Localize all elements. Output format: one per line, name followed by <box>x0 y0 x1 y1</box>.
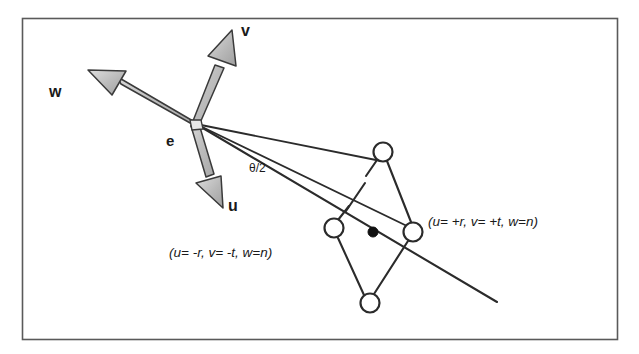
origin-label-e: e <box>166 132 174 149</box>
coord-label-negative: (u= -r, v= -t, w=n) <box>169 245 272 260</box>
vector-label-v: v <box>241 22 250 39</box>
vector-label-w: w <box>48 83 62 100</box>
node-bottom <box>361 294 380 313</box>
node-left <box>325 219 344 238</box>
figure-border <box>23 19 618 340</box>
diagram-canvas: v w u e θ/2 (u= -r, v= -t, w=n) (u= +r, … <box>0 0 639 354</box>
angle-label-theta-half: θ/2 <box>249 161 266 175</box>
node-top <box>374 143 393 162</box>
coord-label-positive: (u= +r, v= +t, w=n) <box>428 214 538 229</box>
node-center-dot <box>368 227 378 237</box>
origin-junction <box>190 120 203 130</box>
node-right <box>404 223 423 242</box>
vector-label-u: u <box>228 197 238 214</box>
figure-root: v w u e θ/2 (u= -r, v= -t, w=n) (u= +r, … <box>0 0 639 354</box>
